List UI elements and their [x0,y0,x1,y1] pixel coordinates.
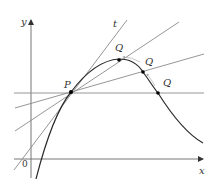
point-P [69,90,73,94]
point-Q-2 [141,70,145,74]
origin-label: 0 [22,159,28,169]
y-axis-label: y [20,16,27,27]
point-P-label: P [63,79,71,90]
point-Q-3-label: Q [163,77,171,88]
point-Q-3 [156,91,160,95]
x-axis-label: x [199,165,205,176]
curve [36,59,203,179]
point-Q-1-label: Q [115,42,123,53]
point-Q-2-label: Q [145,56,153,67]
tangent-label: t [113,18,118,29]
secant-line-1 [15,22,179,131]
secant-line-2 [15,54,204,108]
point-Q-1 [117,58,121,62]
tangent-secant-diagram: y x 0 P Q Q Q t [0,0,214,179]
